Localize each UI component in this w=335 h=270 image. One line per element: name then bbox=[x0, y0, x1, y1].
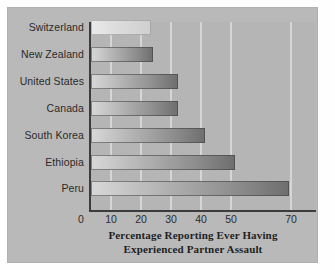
bar-new-zealand bbox=[91, 47, 153, 62]
x-tick-label-20: 20 bbox=[129, 213, 153, 225]
x-tick-label-50: 50 bbox=[219, 213, 243, 225]
bar-switzerland bbox=[91, 20, 151, 35]
x-tick-label-10: 10 bbox=[99, 213, 123, 225]
category-label-ethiopia: Ethiopia bbox=[8, 156, 84, 168]
x-tick-label-0: 0 bbox=[69, 213, 93, 225]
x-tick-label-40: 40 bbox=[189, 213, 213, 225]
axis-title-line-2: Experienced Partner Assault bbox=[68, 243, 318, 257]
x-axis-line bbox=[89, 210, 316, 212]
category-label-south-korea: South Korea bbox=[8, 129, 84, 141]
chart-panel: SwitzerlandNew ZealandUnited StatesCanad… bbox=[8, 8, 317, 262]
category-label-united-states: United States bbox=[8, 75, 84, 87]
category-label-canada: Canada bbox=[8, 102, 84, 114]
x-tick-label-30: 30 bbox=[159, 213, 183, 225]
bar-canada bbox=[91, 101, 178, 116]
bar-peru bbox=[91, 181, 289, 196]
category-label-peru: Peru bbox=[8, 182, 84, 194]
bar-south-korea bbox=[91, 128, 205, 143]
category-label-switzerland: Switzerland bbox=[8, 21, 84, 33]
bar-chart-figure: SwitzerlandNew ZealandUnited StatesCanad… bbox=[0, 0, 335, 270]
category-label-new-zealand: New Zealand bbox=[8, 48, 84, 60]
axis-title: Percentage Reporting Ever Having Experie… bbox=[68, 229, 318, 256]
bar-united-states bbox=[91, 74, 178, 89]
gridline-70 bbox=[290, 22, 292, 210]
axis-title-line-1: Percentage Reporting Ever Having bbox=[68, 229, 318, 243]
x-tick-label-70: 70 bbox=[279, 213, 303, 225]
bar-ethiopia bbox=[91, 155, 235, 170]
